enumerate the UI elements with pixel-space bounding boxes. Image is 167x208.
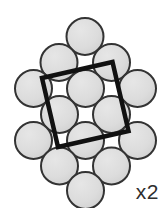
multiplier-label: x2 xyxy=(136,181,159,202)
atom-circle xyxy=(67,172,104,208)
atom-layer xyxy=(15,18,156,208)
packing-diagram-figure: x2 xyxy=(0,0,167,208)
packing-diagram-canvas xyxy=(0,0,167,208)
